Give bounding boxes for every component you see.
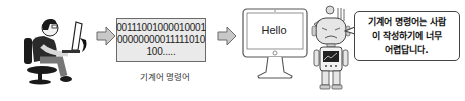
arrow-right-icon: [96, 26, 116, 46]
speech-line: 이 작성하기에 너무: [372, 29, 442, 43]
machine-code-box: 00111001000010001 00000000011111010 100.…: [116, 18, 206, 62]
robot-illustration: [308, 4, 356, 94]
monitor-text: Hello: [250, 24, 298, 36]
machine-code-line: 00000000011111010: [117, 34, 205, 46]
speech-bubble: 기계어 명령어는 사람 이 작성하기에 너무 어렵답니다.: [354, 11, 460, 61]
speech-line: 기계어 명령어는 사람: [368, 15, 446, 29]
programmer-illustration: [20, 14, 98, 86]
machine-code-line: 100.....: [147, 46, 176, 58]
machine-code-caption: 기계어 명령어: [135, 70, 195, 82]
monitor-icon: [242, 8, 308, 86]
machine-code-line: 00111001000010001: [116, 22, 206, 34]
speech-line: 어렵답니다.: [385, 43, 428, 57]
arrow-right-icon: [217, 26, 237, 46]
